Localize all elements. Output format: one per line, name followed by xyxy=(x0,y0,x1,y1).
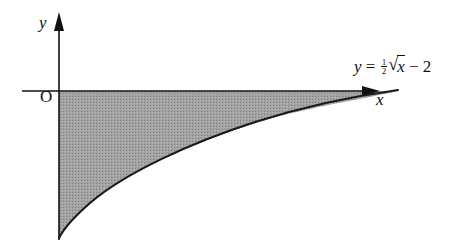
radical-icon: √ xyxy=(388,55,398,73)
y-axis-label: y xyxy=(39,14,47,31)
figure: y x O y = 1 2 √x − 2 xyxy=(0,0,459,243)
fraction-denominator: 2 xyxy=(381,67,388,75)
y-axis-arrow-icon xyxy=(54,12,64,31)
graph-canvas xyxy=(0,0,459,243)
origin-label: O xyxy=(40,88,52,105)
radicand: x xyxy=(397,55,405,76)
equation-equals: = xyxy=(366,57,376,76)
x-axis-label: x xyxy=(376,91,384,108)
square-root: √x xyxy=(388,58,405,75)
equation-fraction: 1 2 xyxy=(381,58,388,75)
curve-equation-label: y = 1 2 √x − 2 xyxy=(354,58,431,77)
shaded-region xyxy=(59,91,398,238)
equation-lhs: y xyxy=(354,57,362,76)
equation-tail: − 2 xyxy=(409,57,431,76)
